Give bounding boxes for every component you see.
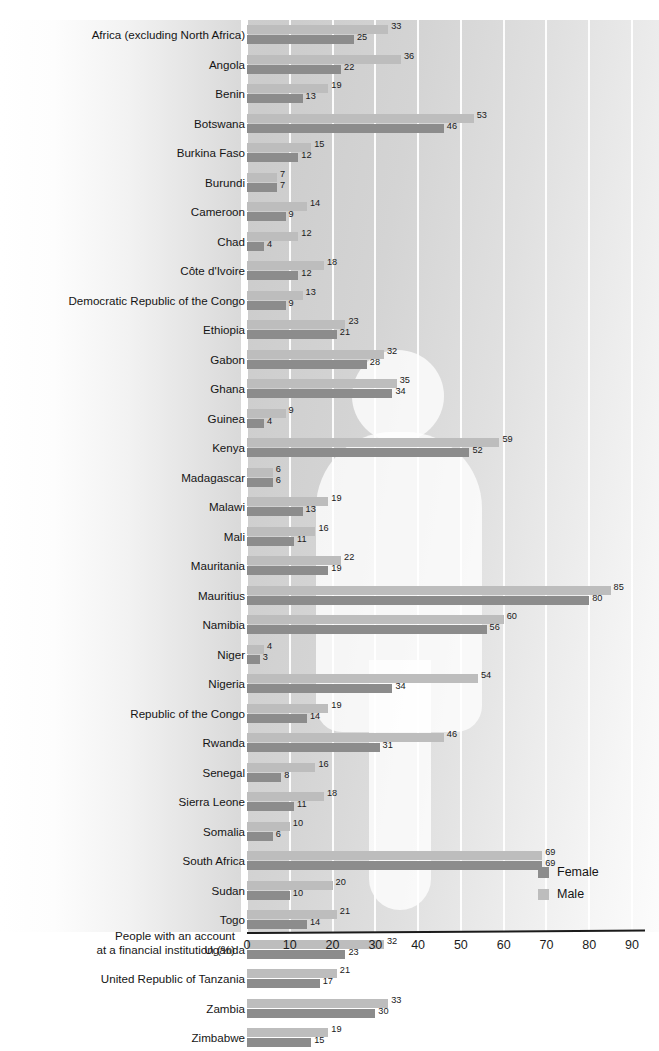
category-label: Benin: [0, 84, 245, 103]
bar-value-female: 4: [267, 239, 272, 249]
bar-male: [247, 350, 384, 359]
bar-female: [247, 1009, 375, 1018]
category-label: Malawi: [0, 497, 245, 516]
x-axis-caption-line-2: at a financial institution (%): [30, 943, 235, 957]
x-tick-label-20: 20: [318, 938, 348, 952]
category-label: Angola: [0, 55, 245, 74]
category-label: Ghana: [0, 379, 245, 398]
bar-female: [247, 65, 341, 74]
bar-value-male: 19: [331, 1024, 341, 1034]
bar-value-female: 19: [331, 563, 341, 573]
bar-female: [247, 124, 444, 133]
chart-row: Madagascar66: [0, 463, 659, 493]
bar-female: [247, 596, 589, 605]
bar-female: [247, 360, 367, 369]
chart-row: Guinea94: [0, 404, 659, 434]
bar-female: [247, 566, 328, 575]
bar-value-female: 14: [310, 917, 320, 927]
bar-value-male: 19: [331, 493, 341, 503]
bar-value-male: 59: [502, 434, 512, 444]
bar-value-female: 12: [301, 150, 311, 160]
legend-label-female: Female: [557, 865, 599, 879]
category-label: Kenya: [0, 438, 245, 457]
chart-row: Zimbabwe1915: [0, 1023, 659, 1051]
bar-value-female: 34: [395, 386, 405, 396]
bar-male: [247, 84, 328, 93]
bar-male: [247, 674, 478, 683]
category-label: Democratic Republic of the Congo: [0, 291, 245, 310]
bar-male: [247, 556, 341, 565]
chart-row: Gabon3228: [0, 345, 659, 375]
bar-value-male: 13: [306, 287, 316, 297]
bar-value-male: 18: [327, 257, 337, 267]
x-tick-label-30: 30: [360, 938, 390, 952]
category-label: Gabon: [0, 350, 245, 369]
category-label: Chad: [0, 232, 245, 251]
bar-male: [247, 438, 499, 447]
category-label: United Republic of Tanzania: [0, 969, 245, 988]
bar-male: [247, 615, 504, 624]
category-label: Sudan: [0, 881, 245, 900]
bar-female: [247, 684, 392, 693]
bar-value-female: 80: [592, 593, 602, 603]
bar-value-male: 69: [545, 847, 555, 857]
bar-female: [247, 478, 273, 487]
bar-value-male: 54: [481, 670, 491, 680]
bar-female: [247, 242, 264, 251]
legend: Female Male: [538, 865, 599, 909]
chart-row: Mauritania2219: [0, 551, 659, 581]
bar-value-female: 6: [276, 829, 281, 839]
bar-value-female: 11: [297, 799, 307, 809]
chart-row: Kenya5952: [0, 433, 659, 463]
bar-male: [247, 910, 337, 919]
category-label: Somalia: [0, 822, 245, 841]
bar-value-female: 23: [348, 947, 358, 957]
category-label: Namibia: [0, 615, 245, 634]
bar-female: [247, 979, 320, 988]
bar-female: [247, 419, 264, 428]
bar-value-female: 10: [293, 888, 303, 898]
chart-row: Botswana5346: [0, 109, 659, 139]
chart-row: Namibia6056: [0, 610, 659, 640]
category-label: Togo: [0, 910, 245, 929]
bar-value-male: 19: [331, 80, 341, 90]
bar-male: [247, 291, 303, 300]
bar-value-female: 15: [314, 1035, 324, 1045]
bar-male: [247, 261, 324, 270]
bar-value-female: 17: [323, 976, 333, 986]
chart-row: Niger43: [0, 640, 659, 670]
bar-value-male: 32: [387, 346, 397, 356]
bar-female: [247, 861, 542, 870]
category-label: Mauritius: [0, 586, 245, 605]
category-label: Ethiopia: [0, 320, 245, 339]
bar-value-male: 53: [477, 110, 487, 120]
bar-value-female: 8: [284, 770, 289, 780]
chart-row: Senegal168: [0, 758, 659, 788]
x-axis-caption-line-1: People with an account: [30, 929, 235, 943]
x-tick-label-60: 60: [489, 938, 519, 952]
bar-female: [247, 832, 273, 841]
bar-female: [247, 802, 294, 811]
bar-value-male: 10: [293, 818, 303, 828]
bar-value-female: 34: [395, 681, 405, 691]
bar-value-female: 4: [267, 416, 272, 426]
bar-value-male: 60: [507, 611, 517, 621]
bar-female: [247, 714, 307, 723]
bar-male: [247, 586, 611, 595]
bar-male: [247, 468, 273, 477]
bar-value-male: 23: [348, 316, 358, 326]
chart-row: Burkina Faso1512: [0, 138, 659, 168]
category-label: Republic of the Congo: [0, 704, 245, 723]
bar-female: [247, 448, 469, 457]
bar-female: [247, 301, 286, 310]
chart-row: Chad124: [0, 227, 659, 257]
bar-value-male: 33: [391, 995, 401, 1005]
bar-value-male: 14: [310, 198, 320, 208]
bar-value-female: 28: [370, 357, 380, 367]
chart-row: Côte d'Ivoire1812: [0, 256, 659, 286]
bar-value-female: 56: [490, 622, 500, 632]
bar-value-male: 19: [331, 700, 341, 710]
bar-chart: Africa (excluding North Africa)3325Angol…: [0, 8, 659, 971]
bar-male: [247, 114, 474, 123]
bar-value-female: 22: [344, 62, 354, 72]
